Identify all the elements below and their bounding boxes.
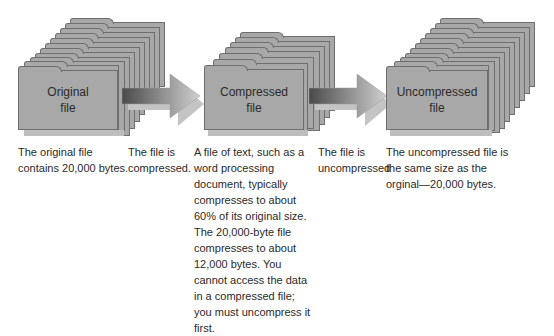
uncompressed-file-label-line2: file — [387, 100, 487, 116]
uncompressed-file-caption: The uncompressed file is the same size a… — [386, 144, 518, 192]
original-file-caption: The original file contains 20,000 bytes. — [18, 144, 130, 176]
compress-caption: The file is compressed. — [128, 144, 190, 176]
uncompressed-file-label: Uncompressed — [387, 84, 487, 100]
uncompressed-file-stack: Uncompressed file — [0, 0, 554, 150]
uncompress-caption: The file is uncompressed — [318, 144, 380, 176]
compressed-file-caption: A file of text, such as a word processin… — [194, 144, 314, 336]
uncompressed-file-card: Uncompressed file — [386, 70, 488, 130]
